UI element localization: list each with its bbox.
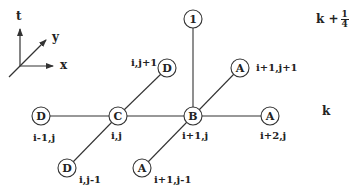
node-label: i-1,j (33, 133, 55, 143)
node-label: i+1,j (182, 131, 208, 141)
node-letter: A (235, 62, 245, 75)
y-axis (9, 40, 46, 77)
edges (50, 28, 261, 162)
node-label: i+1,j-1 (154, 175, 191, 185)
edge-b-a-up (199, 74, 234, 110)
node-label: i+1,j+1 (256, 63, 298, 73)
edge-c-d-down (73, 122, 112, 162)
node-letter: D (162, 62, 172, 75)
axes-icon (9, 29, 53, 77)
node-letter: B (188, 110, 197, 123)
time-level-upper: k +14 (316, 10, 349, 29)
edge-c-d-up (124, 74, 161, 110)
node-letter: C (114, 110, 123, 123)
node-letter: A (137, 162, 147, 175)
node-letter: D (36, 110, 46, 123)
node-label: i,j+1 (131, 58, 157, 68)
node-label: i+2,j (260, 131, 286, 141)
fraction: 14 (341, 10, 349, 29)
stencil-diagram: 1 D A D C B A D A (0, 0, 355, 190)
edge-b-a-down (148, 122, 187, 162)
x-axis-label: x (60, 59, 67, 71)
node-letter: D (62, 162, 72, 175)
y-axis-label: y (52, 31, 59, 43)
time-level-base: k + (316, 12, 339, 26)
node-letter: A (265, 110, 275, 123)
t-axis-label: t (16, 10, 22, 22)
node-label: i,j (111, 131, 122, 141)
time-level-lower: k (322, 105, 330, 117)
node-letter: 1 (189, 13, 197, 26)
node-label: i,j-1 (79, 175, 101, 185)
fraction-denominator: 4 (341, 20, 349, 29)
